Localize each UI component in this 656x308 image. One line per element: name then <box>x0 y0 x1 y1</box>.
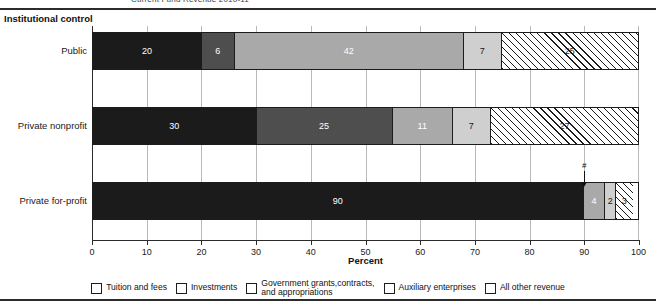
legend-label-tuition: Tuition and fees <box>106 283 167 292</box>
segment-value: 2 <box>608 197 613 206</box>
legend-item-government-grants[interactable]: Government grants,contracts, and appropr… <box>246 279 374 298</box>
legend-label-government: Government grants,contracts, and appropr… <box>261 279 374 298</box>
chart-legend: Tuition and fees Investments Government … <box>0 278 656 298</box>
footnote-symbol: # <box>577 162 591 170</box>
tick-0 <box>92 240 93 245</box>
segment-value: 25 <box>564 47 576 56</box>
bar-private-nonprofit[interactable]: 30 25 11 7 27 <box>92 107 639 145</box>
legend-swatch-auxiliary-icon <box>384 283 395 294</box>
tick-10 <box>147 240 148 245</box>
segment-value: 27 <box>558 122 570 131</box>
tick-50 <box>366 240 367 245</box>
legend-item-tuition-and-fees[interactable]: Tuition and fees <box>91 283 167 294</box>
segment-nonprofit-tuition[interactable]: 30 <box>93 108 257 144</box>
tick-60 <box>420 240 421 245</box>
segment-nonprofit-government[interactable]: 11 <box>393 108 453 144</box>
category-label-forprofit: Private for-profit <box>19 195 87 206</box>
tick-30 <box>256 240 257 245</box>
legend-label-other: All other revenue <box>500 283 565 292</box>
bar-public[interactable]: 20 6 42 7 25 <box>92 32 639 70</box>
category-label-column: Public Private nonprofit Private for-pro… <box>0 26 87 240</box>
legend-item-all-other-revenue[interactable]: All other revenue <box>485 283 565 294</box>
segment-public-investments[interactable]: 6 <box>202 33 235 69</box>
legend-item-investments[interactable]: Investments <box>176 283 237 294</box>
bar-private-for-profit[interactable]: 90 4 2 3 <box>92 182 639 220</box>
segment-forprofit-government[interactable]: 4 <box>584 183 606 219</box>
legend-swatch-other-icon <box>485 283 496 294</box>
arrow-head-icon <box>581 182 587 187</box>
tick-80 <box>530 240 531 245</box>
legend-label-auxiliary: Auxiliary enterprises <box>399 283 476 292</box>
segment-nonprofit-other[interactable]: 27 <box>491 108 638 144</box>
segment-nonprofit-auxiliary[interactable]: 7 <box>453 108 491 144</box>
segment-value: 7 <box>469 122 474 131</box>
segment-value: 25 <box>319 122 329 131</box>
tick-90 <box>584 240 585 245</box>
segment-forprofit-auxiliary[interactable]: 2 <box>605 183 616 219</box>
clipped-heading-text: Current Fund Revenue 2010-11 <box>131 0 249 4</box>
segment-nonprofit-investments[interactable]: 25 <box>257 108 393 144</box>
top-rule <box>0 8 656 10</box>
segment-public-other[interactable]: 25 <box>502 33 638 69</box>
segment-value: 20 <box>142 47 152 56</box>
bottom-rule <box>0 299 656 301</box>
x-axis-title: Percent <box>92 255 639 266</box>
segment-forprofit-tuition[interactable]: 90 <box>93 183 584 219</box>
legend-swatch-tuition-icon <box>91 283 102 294</box>
footnote-arrow-marker: # <box>577 162 591 187</box>
segment-value: 6 <box>215 47 220 56</box>
legend-swatch-government-icon <box>246 283 257 294</box>
segment-value: 11 <box>418 122 427 131</box>
tick-100 <box>639 240 640 245</box>
segment-value: 90 <box>333 197 343 206</box>
legend-item-auxiliary-enterprises[interactable]: Auxiliary enterprises <box>384 283 476 294</box>
segment-value: 4 <box>591 197 596 206</box>
category-label-public: Public <box>61 45 87 56</box>
segment-value: 42 <box>344 47 354 56</box>
segment-value: 3 <box>621 197 628 206</box>
tick-70 <box>475 240 476 245</box>
segment-forprofit-other[interactable]: 3 <box>616 183 632 219</box>
tick-40 <box>311 240 312 245</box>
legend-swatch-investments-icon <box>176 283 187 294</box>
segment-value: 30 <box>169 122 179 131</box>
segment-public-auxiliary[interactable]: 7 <box>464 33 502 69</box>
segment-value: 7 <box>480 47 485 56</box>
axis-group-title: Institutional control <box>4 13 93 24</box>
segment-public-government[interactable]: 42 <box>235 33 464 69</box>
tick-20 <box>201 240 202 245</box>
category-label-nonprofit: Private nonprofit <box>18 120 87 131</box>
plot-area: 0 10 20 30 40 50 60 70 80 90 100 20 6 42… <box>92 26 639 240</box>
segment-public-tuition[interactable]: 20 <box>93 33 202 69</box>
legend-label-investments: Investments <box>191 283 237 292</box>
